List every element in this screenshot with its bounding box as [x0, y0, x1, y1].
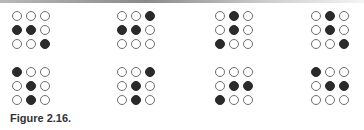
filled-dot-icon [339, 39, 349, 49]
empty-dot-icon [12, 39, 22, 49]
empty-dot-icon [145, 39, 155, 49]
empty-dot-icon [311, 11, 321, 21]
filled-dot-icon [131, 95, 141, 105]
filled-dot-icon [40, 39, 50, 49]
empty-dot-icon [40, 95, 50, 105]
dot-grid-7 [215, 67, 255, 107]
empty-dot-icon [131, 39, 141, 49]
filled-dot-icon [12, 67, 22, 77]
filled-dot-icon [243, 81, 253, 91]
filled-dot-icon [339, 81, 349, 91]
empty-dot-icon [117, 95, 127, 105]
empty-dot-icon [117, 81, 127, 91]
empty-dot-icon [40, 67, 50, 77]
empty-dot-icon [12, 81, 22, 91]
empty-dot-icon [26, 39, 36, 49]
empty-dot-icon [131, 67, 141, 77]
filled-dot-icon [229, 81, 239, 91]
empty-dot-icon [339, 67, 349, 77]
empty-dot-icon [311, 25, 321, 35]
dot-grid-8 [311, 67, 351, 107]
empty-dot-icon [12, 11, 22, 21]
empty-dot-icon [243, 67, 253, 77]
empty-dot-icon [339, 95, 349, 105]
filled-dot-icon [131, 81, 141, 91]
empty-dot-icon [243, 95, 253, 105]
filled-dot-icon [26, 81, 36, 91]
filled-dot-icon [145, 67, 155, 77]
empty-dot-icon [215, 81, 225, 91]
empty-dot-icon [311, 95, 321, 105]
empty-dot-icon [40, 11, 50, 21]
empty-dot-icon [229, 39, 239, 49]
empty-dot-icon [325, 95, 335, 105]
dot-grid-4 [311, 11, 351, 51]
dot-grid-1 [12, 11, 52, 51]
empty-dot-icon [229, 95, 239, 105]
empty-dot-icon [26, 11, 36, 21]
filled-dot-icon [229, 25, 239, 35]
empty-dot-icon [40, 81, 50, 91]
empty-dot-icon [215, 25, 225, 35]
empty-dot-icon [145, 25, 155, 35]
filled-dot-icon [215, 95, 225, 105]
filled-dot-icon [325, 11, 335, 21]
empty-dot-icon [311, 81, 321, 91]
top-edge-bar [0, 0, 364, 3]
empty-dot-icon [215, 11, 225, 21]
filled-dot-icon [12, 25, 22, 35]
empty-dot-icon [325, 39, 335, 49]
dot-grid-6 [117, 67, 157, 107]
empty-dot-icon [243, 11, 253, 21]
empty-dot-icon [40, 25, 50, 35]
empty-dot-icon [117, 11, 127, 21]
filled-dot-icon [26, 95, 36, 105]
empty-dot-icon [117, 67, 127, 77]
empty-dot-icon [243, 39, 253, 49]
empty-dot-icon [339, 25, 349, 35]
filled-dot-icon [145, 11, 155, 21]
empty-dot-icon [131, 11, 141, 21]
empty-dot-icon [339, 11, 349, 21]
filled-dot-icon [26, 25, 36, 35]
filled-dot-icon [311, 67, 321, 77]
empty-dot-icon [12, 95, 22, 105]
dot-grid-2 [117, 11, 157, 51]
figure-caption: Figure 2.16. [10, 112, 71, 124]
filled-dot-icon [325, 81, 335, 91]
dot-grid-5 [12, 67, 52, 107]
empty-dot-icon [117, 39, 127, 49]
empty-dot-icon [243, 25, 253, 35]
filled-dot-icon [131, 25, 141, 35]
empty-dot-icon [215, 67, 225, 77]
empty-dot-icon [229, 67, 239, 77]
filled-dot-icon [325, 25, 335, 35]
empty-dot-icon [145, 95, 155, 105]
dot-grid-3 [215, 11, 255, 51]
filled-dot-icon [117, 25, 127, 35]
empty-dot-icon [325, 67, 335, 77]
empty-dot-icon [311, 39, 321, 49]
filled-dot-icon [215, 39, 225, 49]
filled-dot-icon [229, 11, 239, 21]
empty-dot-icon [26, 67, 36, 77]
empty-dot-icon [145, 81, 155, 91]
